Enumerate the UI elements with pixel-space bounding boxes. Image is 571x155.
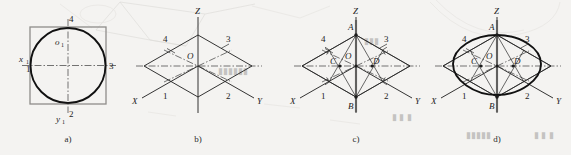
panel-a-point-1: 1 (26, 64, 31, 74)
panel-c-point-o (354, 64, 357, 67)
panel-c-point-b (354, 95, 357, 98)
figure-root: .ink { stroke:#1d1d1d; fill:none; stroke… (0, 0, 571, 155)
panel-b-label-x: X (131, 96, 138, 106)
panel-b-point-1: 1 (163, 91, 168, 101)
panel-d-point-c (480, 65, 483, 68)
panel-c-label-a: A (347, 22, 354, 32)
panel-d-label-x: X (430, 96, 437, 106)
svg-text:▮ ▮ ▮: ▮ ▮ ▮ (392, 112, 412, 122)
panel-a-point-2: 2 (69, 109, 74, 119)
panel-a-label-o: o (55, 37, 60, 47)
panel-d-point-a (495, 33, 498, 36)
panel-c-label-o: O (345, 51, 352, 61)
panel-a-point-3: 3 (109, 61, 114, 71)
panel-d-point-label-2: 2 (525, 91, 530, 101)
panel-b-point-4: 4 (163, 34, 168, 44)
panel-d-label-c: C (471, 56, 478, 66)
panel-d-label-a: A (488, 22, 495, 32)
panel-a-label-x: x (18, 54, 23, 64)
panel-c-point-a (354, 33, 357, 36)
panel-a-label-y: y (55, 114, 60, 124)
caption-c: c) (336, 134, 376, 144)
panel-c-label-c: C (330, 56, 337, 66)
panel-b-point-3: 3 (226, 34, 231, 44)
panel-b-point-2: 2 (226, 91, 231, 101)
panel-d-label-o: O (486, 51, 493, 61)
panel-c-label-x: X (289, 96, 296, 106)
panel-d-point-label-1: 1 (462, 91, 467, 101)
panel-c-point-label-1: 1 (321, 91, 326, 101)
svg-text:▮ ▮ ▮: ▮ ▮ ▮ (534, 130, 554, 140)
panel-a-point-4: 4 (69, 14, 74, 24)
panel-d-label-b: B (489, 101, 495, 111)
caption-b: b) (178, 134, 218, 144)
caption-d: d) (477, 134, 517, 144)
panel-c-label-b: B (348, 101, 354, 111)
panel-c-label-d: D (372, 56, 380, 66)
panel-d-point-label-3: 3 (525, 34, 530, 44)
panel-c-point-label-3: 3 (384, 34, 389, 44)
panel-d-point-o (495, 64, 498, 67)
panel-d-point-b (495, 95, 498, 98)
caption-a: a) (48, 134, 88, 144)
panel-d-point-label-4: 4 (462, 34, 467, 44)
panel-d-label-d: D (513, 56, 521, 66)
panel-c-point-label-2: 2 (384, 91, 389, 101)
panel-c-point-label-4: 4 (321, 34, 326, 44)
panel-b-label-o: O (187, 51, 194, 61)
panel-a-label-o-sub: 1 (61, 42, 64, 48)
panel-c-point-c (339, 65, 342, 68)
panel-a-label-y-sub: 1 (62, 119, 65, 125)
